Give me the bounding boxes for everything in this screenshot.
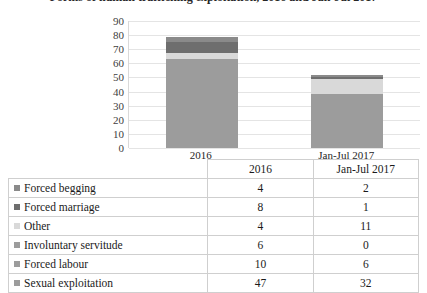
y-axis-tick-label: 0 xyxy=(119,143,125,154)
y-axis-tick-label: 70 xyxy=(113,44,124,55)
y-axis-tick-label: 10 xyxy=(113,129,124,140)
legend-entry: Sexual exploitation xyxy=(9,274,208,293)
chart-area: 0102030405060708090 2016Jan-Jul 2017 xyxy=(0,8,427,160)
table-row: Forced labour106 xyxy=(9,255,419,274)
y-axis-tick-label: 40 xyxy=(113,87,124,98)
cell-2016: 47 xyxy=(208,274,313,293)
legend-data-table: 2016 Jan-Jul 2017 Forced begging42Forced… xyxy=(8,159,419,293)
legend-entry: Forced labour xyxy=(9,255,208,274)
cell-2017: 11 xyxy=(313,217,418,236)
cell-2017: 2 xyxy=(313,179,418,198)
table-row: Sexual exploitation4732 xyxy=(9,274,419,293)
stacked-bar xyxy=(311,75,383,148)
table-row: Other411 xyxy=(9,217,419,236)
table-header-row: 2016 Jan-Jul 2017 xyxy=(9,160,419,179)
legend-swatch-icon xyxy=(14,261,20,267)
gridline xyxy=(129,21,420,22)
cell-2017: 32 xyxy=(313,274,418,293)
legend-label: Forced labour xyxy=(24,258,88,270)
y-axis-tick-label: 90 xyxy=(113,16,124,27)
plot-area xyxy=(128,21,420,148)
table-row: Forced marriage81 xyxy=(9,198,419,217)
bar-segment xyxy=(311,94,383,102)
legend-label: Other xyxy=(24,220,50,232)
y-axis-tick-label: 60 xyxy=(113,58,124,69)
legend-label: Forced marriage xyxy=(24,201,100,213)
legend-label: Sexual exploitation xyxy=(24,277,113,289)
legend-entry: Forced marriage xyxy=(9,198,208,217)
table-row: Forced begging42 xyxy=(9,179,419,198)
bar-segment xyxy=(166,59,238,67)
cell-2017: 0 xyxy=(313,236,418,255)
y-axis: 0102030405060708090 xyxy=(98,16,124,146)
legend-label: Forced begging xyxy=(24,182,96,194)
header-blank xyxy=(9,160,208,179)
legend-swatch-icon xyxy=(14,242,20,248)
y-axis-tick-label: 20 xyxy=(113,115,124,126)
cell-2016: 4 xyxy=(208,217,313,236)
bar-segment xyxy=(311,79,383,95)
cell-2016: 10 xyxy=(208,255,313,274)
stacked-bar xyxy=(166,37,238,148)
legend-swatch-icon xyxy=(14,280,20,286)
cell-2016: 8 xyxy=(208,198,313,217)
legend-swatch-icon xyxy=(14,204,20,210)
bar-segment xyxy=(166,82,238,148)
legend-label: Involuntary servitude xyxy=(24,239,123,251)
cell-2016: 6 xyxy=(208,236,313,255)
y-axis-tick-label: 80 xyxy=(113,30,124,41)
legend-entry: Involuntary servitude xyxy=(9,236,208,255)
header-2017: Jan-Jul 2017 xyxy=(313,160,418,179)
bar-segment xyxy=(311,103,383,148)
cell-2017: 1 xyxy=(313,198,418,217)
y-axis-tick-label: 50 xyxy=(113,72,124,83)
cell-2017: 6 xyxy=(313,255,418,274)
bar-segment xyxy=(166,42,238,53)
table-row: Involuntary servitude60 xyxy=(9,236,419,255)
bar-segment xyxy=(166,68,238,82)
page-title: Forms of human trafficking exploitation,… xyxy=(0,0,427,3)
legend-entry: Forced begging xyxy=(9,179,208,198)
cell-2016: 4 xyxy=(208,179,313,198)
table-body: Forced begging42Forced marriage81Other41… xyxy=(9,179,419,293)
header-2016: 2016 xyxy=(208,160,313,179)
legend-swatch-icon xyxy=(14,185,20,191)
legend-swatch-icon xyxy=(14,223,20,229)
y-axis-tick-label: 30 xyxy=(113,101,124,112)
legend-entry: Other xyxy=(9,217,208,236)
